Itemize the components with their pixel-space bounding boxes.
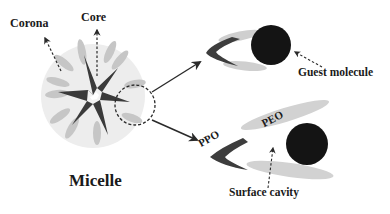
micelle xyxy=(41,39,147,148)
guest-molecule xyxy=(286,123,328,165)
ppo-segment xyxy=(210,138,248,170)
arrow-to-cavity-unimer xyxy=(152,120,197,140)
arrow-to-guest-unimer xyxy=(152,62,200,92)
diagram-graphic xyxy=(0,0,390,214)
surface-cavity-label: Surface cavity xyxy=(229,187,299,199)
guest-molecule-label: Guest molecule xyxy=(298,67,373,79)
guest-pointer-arrow xyxy=(295,52,322,67)
unimer-with-guest xyxy=(206,25,291,73)
micelle-label: Micelle xyxy=(69,172,122,189)
corona-label: Corona xyxy=(10,17,48,29)
peo-segment-lower xyxy=(245,157,334,183)
micelle-diagram: Corona Core Micelle Guest molecule Surfa… xyxy=(0,0,390,214)
unimer-surface-cavity xyxy=(210,95,335,183)
guest-molecule xyxy=(251,25,291,65)
core-label: Core xyxy=(81,11,106,23)
